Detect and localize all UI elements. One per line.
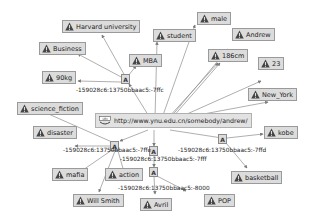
- warning-icon: [200, 14, 209, 23]
- uri-icon: URI: [99, 116, 111, 126]
- literal-label: Will Smith: [87, 197, 120, 205]
- edge-label-7ffe: -159028c6:13750bbaac5:-7ffe: [63, 147, 151, 153]
- warning-icon: [76, 196, 85, 205]
- warning-icon: [42, 44, 51, 53]
- literal-label: 23: [272, 60, 280, 68]
- edge-label-8000: -159028c6:13750bbaac5:-8000: [118, 185, 210, 191]
- literal-student[interactable]: student: [153, 29, 196, 42]
- literal-height[interactable]: 186cm: [208, 49, 248, 62]
- literal-label: science_fiction: [31, 105, 79, 113]
- literal-mafia[interactable]: mafia: [52, 168, 88, 181]
- warning-icon: [55, 170, 64, 179]
- literal-label: 90kg: [56, 74, 72, 82]
- literal-label: student: [167, 32, 192, 40]
- literal-basketball[interactable]: basketball: [231, 171, 282, 184]
- literal-label: MBA: [143, 57, 158, 65]
- literal-pop[interactable]: POP: [204, 194, 235, 207]
- warning-icon: [132, 56, 141, 65]
- literal-action[interactable]: action: [105, 168, 143, 181]
- edge-label-7ffc: -159028c6:13750bbaac5:-7ffc: [76, 87, 164, 93]
- literal-label: disaster: [47, 129, 73, 137]
- literal-age[interactable]: 23: [258, 57, 284, 70]
- warning-icon: [143, 200, 152, 209]
- literal-mba[interactable]: MBA: [129, 54, 162, 67]
- warning-icon: [251, 90, 260, 99]
- edge-label-7fff: -159028c6:13750bbaac5:-7fff: [120, 156, 207, 162]
- literal-label: mafia: [66, 171, 84, 179]
- warning-icon: [211, 51, 220, 60]
- literal-label: basketball: [245, 174, 278, 182]
- svg-text:URI: URI: [102, 116, 107, 120]
- resource-uri: http://www.ynu.edu.cn/somebody/andrew/: [114, 117, 248, 124]
- literal-label: Harvard university: [76, 23, 136, 31]
- warning-icon: [235, 30, 244, 39]
- edge-label-7ffd: -159028c6:13750bbaac5:-7ffd: [178, 147, 266, 153]
- literal-label: 186cm: [222, 52, 244, 60]
- warning-icon: [261, 59, 270, 68]
- literal-label: kobe: [278, 129, 294, 137]
- literal-label: Andrew: [246, 31, 271, 39]
- blank-node-5[interactable]: A: [149, 167, 158, 177]
- literal-label: Avril: [154, 201, 168, 209]
- literal-label: POP: [218, 197, 231, 205]
- warning-icon: [156, 31, 165, 40]
- warning-icon: [267, 128, 276, 137]
- literal-kobe[interactable]: kobe: [264, 126, 298, 139]
- blank-node-4[interactable]: A: [218, 134, 227, 144]
- resource-node[interactable]: URI http://www.ynu.edu.cn/somebody/andre…: [95, 113, 252, 128]
- literal-label: New_York: [262, 91, 293, 99]
- literal-science-fiction[interactable]: science_fiction: [17, 102, 83, 115]
- literal-will-smith[interactable]: Will Smith: [73, 194, 124, 207]
- warning-icon: [234, 173, 243, 182]
- literal-disaster[interactable]: disaster: [33, 126, 77, 139]
- warning-icon: [207, 196, 216, 205]
- literal-weight[interactable]: 90kg: [42, 71, 76, 84]
- warning-icon: [45, 73, 54, 82]
- literal-avril[interactable]: Avril: [140, 198, 172, 211]
- warning-icon: [108, 170, 117, 179]
- literal-male[interactable]: male: [197, 12, 231, 25]
- literal-new-york[interactable]: New_York: [248, 88, 297, 101]
- literal-andrew[interactable]: Andrew: [232, 28, 275, 41]
- literal-business[interactable]: Business: [39, 42, 86, 55]
- literal-label: action: [119, 171, 139, 179]
- warning-icon: [20, 104, 29, 113]
- blank-node-1[interactable]: A: [121, 74, 130, 84]
- warning-icon: [65, 22, 74, 31]
- literal-label: male: [211, 15, 227, 23]
- warning-icon: [36, 128, 45, 137]
- literal-label: Business: [53, 45, 82, 53]
- literal-harvard[interactable]: Harvard university: [62, 20, 140, 33]
